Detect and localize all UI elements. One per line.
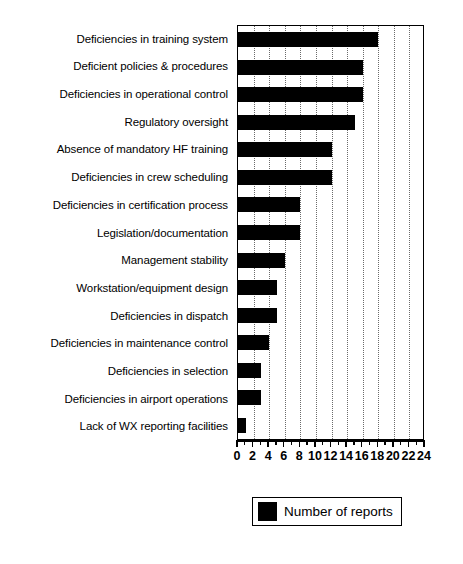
x-tick-major <box>267 440 268 447</box>
bar-series <box>238 26 423 439</box>
bar <box>238 32 378 47</box>
category-label: Lack of WX reporting facilities <box>0 412 233 440</box>
plot-area <box>237 25 424 440</box>
x-tick-major <box>345 440 346 447</box>
bar-slot <box>238 81 423 109</box>
bar-slot <box>238 136 423 164</box>
x-tick-label: 24 <box>417 449 431 463</box>
x-tick-minor <box>384 440 385 445</box>
x-tick-minor <box>400 440 401 445</box>
bar-slot <box>238 219 423 247</box>
bar-slot <box>238 411 423 439</box>
bar <box>238 335 269 350</box>
x-tick-major <box>377 440 378 447</box>
x-tick-major <box>314 440 315 447</box>
x-tick-label: 4 <box>265 449 272 463</box>
legend-label-number-of-reports: Number of reports <box>284 504 393 519</box>
category-label: Deficiencies in operational control <box>0 80 233 108</box>
x-axis: 024681012141618202224 <box>237 440 424 474</box>
bar-slot <box>238 164 423 192</box>
bar <box>238 197 300 212</box>
bar-slot <box>238 329 423 357</box>
x-tick-minor <box>244 440 245 445</box>
x-tick-label: 8 <box>296 449 303 463</box>
category-label: Management stability <box>0 246 233 274</box>
x-tick-major <box>330 440 331 447</box>
bar-slot <box>238 246 423 274</box>
category-label: Deficiencies in dispatch <box>0 302 233 330</box>
x-tick-minor <box>306 440 307 445</box>
x-tick-minor <box>275 440 276 445</box>
bar-slot <box>238 191 423 219</box>
category-label: Regulatory oversight <box>0 108 233 136</box>
bar <box>238 363 261 378</box>
bar <box>238 253 285 268</box>
x-tick-major <box>236 440 237 447</box>
x-tick-minor <box>353 440 354 445</box>
plot-block: Deficiencies in training systemDeficient… <box>0 25 463 440</box>
bar-slot <box>238 54 423 82</box>
bar <box>238 390 261 405</box>
x-tick-major <box>252 440 253 447</box>
category-label: Deficiencies in crew scheduling <box>0 163 233 191</box>
bar <box>238 225 300 240</box>
bar-slot <box>238 384 423 412</box>
x-tick-major <box>299 440 300 447</box>
bar <box>238 60 363 75</box>
legend-swatch-number-of-reports <box>258 502 277 521</box>
bar <box>238 142 332 157</box>
x-tick-label: 20 <box>386 449 400 463</box>
bar-slot <box>238 301 423 329</box>
bar <box>238 418 246 433</box>
category-label: Workstation/equipment design <box>0 274 233 302</box>
bar <box>238 115 355 130</box>
category-label: Absence of mandatory HF training <box>0 136 233 164</box>
bar <box>238 87 363 102</box>
x-tick-label: 14 <box>339 449 353 463</box>
x-tick-minor <box>322 440 323 445</box>
bar <box>238 170 332 185</box>
x-tick-minor <box>291 440 292 445</box>
category-label: Deficiencies in training system <box>0 25 233 53</box>
x-tick-label: 22 <box>401 449 415 463</box>
bar <box>238 308 277 323</box>
x-tick-label: 12 <box>324 449 338 463</box>
x-tick-label: 2 <box>249 449 256 463</box>
x-tick-minor <box>260 440 261 445</box>
x-tick-label: 18 <box>370 449 384 463</box>
category-label: Deficiencies in selection <box>0 357 233 385</box>
x-tick-label: 10 <box>308 449 322 463</box>
x-tick-major <box>283 440 284 447</box>
category-label: Deficiencies in airport operations <box>0 385 233 413</box>
x-tick-label: 6 <box>280 449 287 463</box>
category-label: Legislation/documentation <box>0 219 233 247</box>
x-tick-minor <box>338 440 339 445</box>
category-label: Deficiencies in certification process <box>0 191 233 219</box>
category-label: Deficiencies in maintenance control <box>0 329 233 357</box>
category-label: Deficient policies & procedures <box>0 53 233 81</box>
x-tick-major <box>361 440 362 447</box>
bar-slot <box>238 274 423 302</box>
bar-slot <box>238 26 423 54</box>
bar-slot <box>238 109 423 137</box>
x-tick-major <box>408 440 409 447</box>
chart-legend: Number of reports <box>252 497 402 526</box>
x-tick-minor <box>369 440 370 445</box>
bar <box>238 280 277 295</box>
category-axis: Deficiencies in training systemDeficient… <box>0 25 233 440</box>
x-tick-major <box>423 440 424 447</box>
x-tick-label: 0 <box>234 449 241 463</box>
bar-chart-figure: Deficiencies in training systemDeficient… <box>0 0 463 564</box>
bar-slot <box>238 356 423 384</box>
x-tick-label: 16 <box>355 449 369 463</box>
x-tick-minor <box>416 440 417 445</box>
x-tick-major <box>392 440 393 447</box>
